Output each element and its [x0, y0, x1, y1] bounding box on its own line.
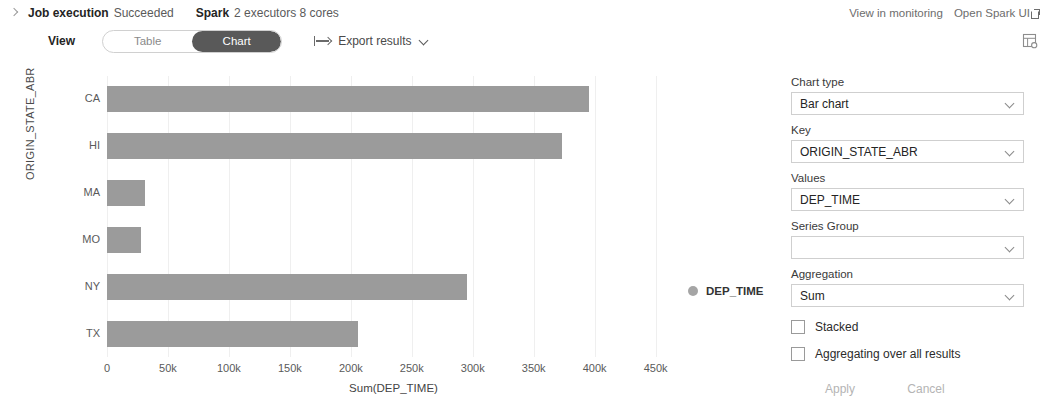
values-select[interactable]: DEP_TIME [791, 188, 1024, 211]
chevron-down-icon [1006, 292, 1015, 301]
bar-row [107, 170, 680, 217]
header-links: View in monitoring Open Spark UI [849, 0, 1040, 25]
chevron-down-icon [419, 36, 429, 46]
bar-row [107, 263, 680, 310]
values-value: DEP_TIME [800, 193, 860, 207]
panel-actions: Apply Cancel [791, 378, 1024, 396]
aggregating-all-checkbox[interactable] [791, 347, 805, 361]
bar-row [107, 217, 680, 264]
table-settings-icon[interactable] [1018, 29, 1040, 51]
x-tick-400k: 400k [583, 362, 607, 374]
cancel-button[interactable]: Cancel [889, 378, 963, 396]
view-in-monitoring-link[interactable]: View in monitoring [849, 7, 943, 19]
y-tick-MA: MA [40, 186, 100, 198]
stacked-label: Stacked [815, 320, 858, 334]
series-group-label: Series Group [791, 220, 1024, 232]
aggregation-value: Sum [800, 289, 825, 303]
export-results-label: Export results [338, 34, 411, 48]
key-value: ORIGIN_STATE_ABR [800, 145, 918, 159]
apply-button[interactable]: Apply [803, 378, 877, 396]
spark-resources-text: 2 executors 8 cores [234, 6, 339, 20]
chart-legend: DEP_TIME [688, 285, 764, 297]
chevron-down-icon [1006, 244, 1015, 253]
export-results-button[interactable]: Export results [314, 34, 428, 48]
bar-CA[interactable] [107, 86, 589, 112]
job-status-text: Succeeded [114, 6, 174, 20]
x-tick-350k: 350k [522, 362, 546, 374]
bar-MA[interactable] [107, 180, 145, 206]
view-toggle[interactable]: Table Chart [102, 30, 282, 53]
view-label: View [48, 34, 75, 48]
x-tick-250k: 250k [400, 362, 424, 374]
export-arrow-icon [314, 36, 331, 46]
x-tick-450k: 450k [644, 362, 668, 374]
stacked-checkbox[interactable] [791, 320, 805, 334]
results-toolbar: View Table Chart Export results [0, 25, 1048, 57]
bar-row [107, 76, 680, 123]
aggregating-all-checkbox-row[interactable]: Aggregating over all results [791, 347, 1024, 361]
x-tick-300k: 300k [461, 362, 485, 374]
toggle-option-table[interactable]: Table [103, 31, 192, 52]
chevron-down-icon [1006, 196, 1015, 205]
bar-MO[interactable] [107, 227, 141, 253]
bar-row [107, 310, 680, 357]
chevron-down-icon [1006, 148, 1015, 157]
x-tick-100k: 100k [217, 362, 241, 374]
x-axis-tick-labels: 050k100k150k200k250k300k350k400k450k [107, 362, 680, 378]
chart-type-value: Bar chart [800, 97, 849, 111]
chevron-right-icon[interactable] [8, 6, 22, 20]
y-tick-NY: NY [40, 280, 100, 292]
values-label: Values [791, 172, 1024, 184]
x-tick-150k: 150k [278, 362, 302, 374]
y-tick-TX: TX [40, 327, 100, 339]
job-execution-header: Job execution Succeeded Spark 2 executor… [0, 0, 1048, 25]
y-axis-title: ORIGIN_STATE_ABR [24, 67, 36, 180]
bar-row [107, 123, 680, 170]
aggregating-all-label: Aggregating over all results [815, 347, 960, 361]
series-group-select[interactable] [791, 236, 1024, 259]
chart-type-select[interactable]: Bar chart [791, 92, 1024, 115]
y-tick-CA: CA [40, 92, 100, 104]
y-tick-MO: MO [40, 233, 100, 245]
x-axis-title: Sum(DEP_TIME) [107, 382, 680, 394]
legend-item-label: DEP_TIME [706, 285, 764, 297]
aggregation-select[interactable]: Sum [791, 284, 1024, 307]
key-select[interactable]: ORIGIN_STATE_ABR [791, 140, 1024, 163]
spark-label: Spark [196, 6, 229, 20]
legend-color-dot [688, 286, 698, 296]
chevron-down-icon [1006, 100, 1015, 109]
x-tick-200k: 200k [339, 362, 363, 374]
bar-TX[interactable] [107, 321, 358, 347]
x-tick-50k: 50k [159, 362, 177, 374]
y-tick-HI: HI [40, 139, 100, 151]
chart-type-label: Chart type [791, 76, 1024, 88]
y-axis-tick-labels: CAHIMAMONYTX [38, 76, 100, 357]
chart-config-panel: Chart type Bar chart Key ORIGIN_STATE_AB… [791, 76, 1024, 396]
external-link-icon [1031, 9, 1040, 18]
job-execution-label: Job execution [28, 6, 109, 20]
x-tick-0: 0 [104, 362, 110, 374]
toggle-option-chart[interactable]: Chart [192, 31, 281, 52]
plot-area [107, 76, 680, 357]
bar-HI[interactable] [107, 133, 562, 159]
key-label: Key [791, 124, 1024, 136]
aggregation-label: Aggregation [791, 268, 1024, 280]
open-spark-ui-link[interactable]: Open Spark UI [954, 7, 1040, 19]
chart-area: ORIGIN_STATE_ABR CAHIMAMONYTX 050k100k15… [0, 60, 775, 396]
bar-NY[interactable] [107, 274, 467, 300]
stacked-checkbox-row[interactable]: Stacked [791, 320, 1024, 334]
